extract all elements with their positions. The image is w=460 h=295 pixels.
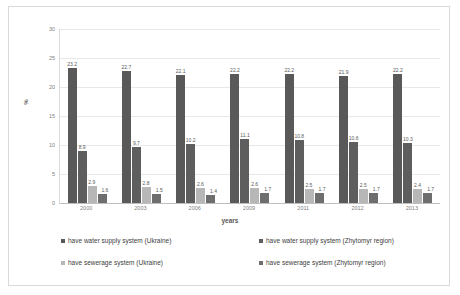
bar[interactable]: 1.5 <box>152 194 161 203</box>
bar[interactable]: 9.7 <box>132 147 141 203</box>
bar[interactable]: 22.2 <box>285 74 294 203</box>
bar-value-label: 1.7 <box>373 186 380 192</box>
bar-value-label: 2.4 <box>414 182 421 188</box>
y-axis-tick: 15 <box>49 113 55 119</box>
bar-group: 22.110.22.61.4 <box>169 29 223 203</box>
legend-swatch-icon <box>259 239 263 243</box>
bar-group: 22.210.82.51.7 <box>277 29 331 203</box>
bar-value-label: 23.2 <box>67 61 77 67</box>
legend-label: have water supply system (Ukraine) <box>68 237 171 244</box>
bar-value-label: 22.2 <box>393 67 403 73</box>
legend-swatch-icon <box>259 261 263 265</box>
y-axis-tick: 25 <box>49 55 55 61</box>
x-axis-tick: 2009 <box>222 205 276 211</box>
bar[interactable]: 1.7 <box>260 193 269 203</box>
bar-value-label: 2.8 <box>143 180 150 186</box>
y-axis-title: % <box>23 99 29 104</box>
x-axis-tick: 2006 <box>168 205 222 211</box>
bar-value-label: 10.8 <box>294 133 304 139</box>
bar[interactable]: 2.4 <box>413 189 422 203</box>
bar[interactable]: 22.7 <box>122 71 131 203</box>
bar-value-label: 1.7 <box>319 186 326 192</box>
bar-value-label: 10.6 <box>349 135 359 141</box>
bar[interactable]: 10.8 <box>295 140 304 203</box>
y-axis-tick: 30 <box>49 26 55 32</box>
bar-value-label: 22.2 <box>284 67 294 73</box>
bar-value-label: 2.5 <box>305 182 312 188</box>
bar-group: 21.910.62.51.7 <box>331 29 385 203</box>
bar[interactable]: 10.6 <box>349 142 358 203</box>
bar-group: 22.79.72.81.5 <box>114 29 168 203</box>
legend-item-sewerage-zhytomyr[interactable]: have sewerage system (Zhytomyr region) <box>259 259 386 266</box>
bar[interactable]: 11.1 <box>240 139 249 203</box>
bar[interactable]: 1.7 <box>369 193 378 203</box>
y-axis-tick: 20 <box>49 84 55 90</box>
x-axis-tick: 2013 <box>385 205 439 211</box>
x-axis-tick-labels: 2000200320062009201120122013 <box>59 205 439 211</box>
bar-value-label: 22.1 <box>176 68 186 74</box>
bar-value-label: 10.2 <box>186 137 196 143</box>
bar-value-label: 9.7 <box>133 140 140 146</box>
bar-value-label: 2.9 <box>88 179 95 185</box>
bar-groups: 23.28.92.91.622.79.72.81.522.110.22.61.4… <box>60 29 440 203</box>
plot-region: % 051015202530 23.28.92.91.622.79.72.81.… <box>9 7 451 217</box>
bar-value-label: 8.9 <box>79 144 86 150</box>
bar[interactable]: 2.5 <box>305 189 314 204</box>
chart-container: % 051015202530 23.28.92.91.622.79.72.81.… <box>8 6 450 286</box>
plot-area: 23.28.92.91.622.79.72.81.522.110.22.61.4… <box>59 29 440 204</box>
bar[interactable]: 22.1 <box>176 75 185 203</box>
y-axis-tick: 10 <box>49 142 55 148</box>
legend-label: have sewerage system (Ukraine) <box>68 259 163 266</box>
bar[interactable]: 22.2 <box>230 74 239 203</box>
bar[interactable]: 2.6 <box>250 188 259 203</box>
bar[interactable]: 2.9 <box>88 186 97 203</box>
x-axis-tick: 2003 <box>113 205 167 211</box>
bar[interactable]: 1.4 <box>206 195 215 203</box>
x-axis-tick: 2000 <box>59 205 113 211</box>
y-axis-tick-labels: 051015202530 <box>35 29 57 203</box>
bar-value-label: 2.5 <box>360 182 367 188</box>
legend-item-water-supply-ukraine[interactable]: have water supply system (Ukraine) <box>61 237 171 244</box>
y-axis-tick: 0 <box>52 200 55 206</box>
bar[interactable]: 2.5 <box>359 189 368 204</box>
legend-swatch-icon <box>61 261 65 265</box>
bar-value-label: 2.6 <box>251 181 258 187</box>
bar-value-label: 1.7 <box>427 186 434 192</box>
legend-label: have sewerage system (Zhytomyr region) <box>266 259 386 266</box>
bar[interactable]: 1.6 <box>98 194 107 203</box>
bar-value-label: 1.7 <box>264 186 271 192</box>
y-axis-tick: 5 <box>52 171 55 177</box>
bar-value-label: 11.1 <box>240 132 249 138</box>
bar[interactable]: 21.9 <box>339 76 348 203</box>
bar-value-label: 21.9 <box>339 69 349 75</box>
bar[interactable]: 8.9 <box>78 151 87 203</box>
bar-value-label: 1.6 <box>101 187 108 193</box>
legend-label: have water supply system (Zhytomyr regio… <box>266 237 394 244</box>
bar-value-label: 1.5 <box>156 187 163 193</box>
bar[interactable]: 22.2 <box>393 74 402 203</box>
legend-item-sewerage-ukraine[interactable]: have sewerage system (Ukraine) <box>61 259 163 266</box>
bar-group: 22.210.32.41.7 <box>386 29 440 203</box>
bar[interactable]: 10.3 <box>403 143 412 203</box>
x-axis-tick: 2012 <box>330 205 384 211</box>
legend-item-water-supply-zhytomyr[interactable]: have water supply system (Zhytomyr regio… <box>259 237 394 244</box>
x-axis-title: years <box>9 217 451 224</box>
bar-group: 22.211.12.61.7 <box>223 29 277 203</box>
bar[interactable]: 23.2 <box>68 68 77 203</box>
x-axis-tick: 2011 <box>276 205 330 211</box>
bar-value-label: 22.7 <box>122 64 132 70</box>
legend-swatch-icon <box>61 239 65 243</box>
bar-value-label: 1.4 <box>210 188 217 194</box>
bar[interactable]: 1.7 <box>315 193 324 203</box>
bar-group: 23.28.92.91.6 <box>60 29 114 203</box>
chart-legend: have water supply system (Ukraine) have … <box>9 233 451 281</box>
bar[interactable]: 1.7 <box>423 193 432 203</box>
bar-value-label: 22.2 <box>230 67 240 73</box>
bar[interactable]: 10.2 <box>186 144 195 203</box>
bar-value-label: 10.3 <box>403 136 413 142</box>
bar[interactable]: 2.8 <box>142 187 151 203</box>
bar[interactable]: 2.6 <box>196 188 205 203</box>
bar-value-label: 2.6 <box>197 181 204 187</box>
